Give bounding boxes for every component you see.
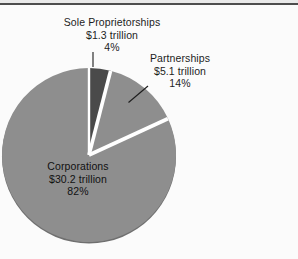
pie-label-corporations-percent: 82% [26, 185, 130, 198]
pie-label-partnerships-name: Partnerships [128, 52, 232, 65]
pie-label-corporations-value: $30.2 trillion [26, 173, 130, 186]
figure-canvas: Sole Proprietorships $1.3 trillion 4% Pa… [0, 0, 298, 259]
pie-label-sole-proprietorships: Sole Proprietorships $1.3 trillion 4% [42, 16, 182, 54]
pie-chart: Sole Proprietorships $1.3 trillion 4% Pa… [0, 0, 298, 259]
pie-label-partnerships-percent: 14% [128, 77, 232, 90]
pie-label-corporations-name: Corporations [26, 160, 130, 173]
pie-label-partnerships-value: $5.1 trillion [128, 65, 232, 78]
pie-label-partnerships: Partnerships $5.1 trillion 14% [128, 52, 232, 90]
pie-label-corporations: Corporations $30.2 trillion 82% [26, 160, 130, 198]
pie-label-sole-proprietorships-value: $1.3 trillion [42, 29, 182, 42]
pie-label-sole-proprietorships-name: Sole Proprietorships [42, 16, 182, 29]
